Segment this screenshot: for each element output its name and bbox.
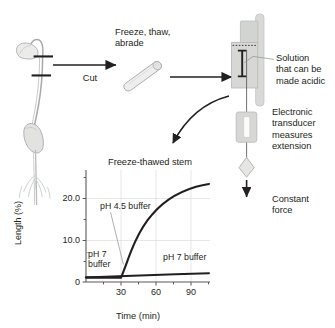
cut-mark-upper — [34, 55, 53, 57]
extensometer-apparatus — [232, 14, 264, 197]
transducer-core — [244, 117, 250, 138]
solution-chamber — [232, 42, 258, 88]
label-freeze-thaw-abrade: Freeze, thaw, abrade — [115, 27, 201, 50]
chart-title: Freeze-thawed stem — [90, 157, 210, 168]
chart-xtick-30: 30 — [108, 288, 134, 297]
chart-xtick-90: 90 — [178, 288, 204, 297]
label-solution-that-can-be-made-acidic: Solution that can be made acidic — [276, 53, 335, 87]
chart-ytick-20: 20.0 — [46, 194, 80, 203]
label-electronic-transducer: Electronic transducer measures extension — [272, 107, 335, 152]
arrow-to-chart — [173, 96, 229, 143]
chart-x-axis-title: Time (min) — [78, 311, 198, 321]
cut-mark-lower — [32, 74, 51, 76]
annotation-ph7-buffer-right: pH 7 buffer — [163, 252, 221, 262]
figure-canvas: Freeze, thaw, abrade Cut Solution that c… — [0, 0, 335, 328]
annotation-ph7-buffer-left: pH 7 buffer — [88, 249, 118, 269]
chart-ytick-0: 0 — [46, 278, 80, 287]
chart-xtick-60: 60 — [143, 288, 169, 297]
label-cut: Cut — [62, 73, 118, 84]
stem-segment-illustration — [124, 62, 162, 91]
chart-ytick-10: 10.0 — [46, 236, 80, 245]
chart-y-axis-title: Length (%) — [13, 192, 23, 254]
hanging-weight — [239, 157, 254, 177]
clamp-arm-upper — [240, 21, 258, 43]
label-constant-force: Constant force — [272, 194, 330, 217]
seedling-illustration — [16, 40, 53, 206]
annotation-ph45-buffer: pH 4.5 buffer — [100, 201, 164, 211]
